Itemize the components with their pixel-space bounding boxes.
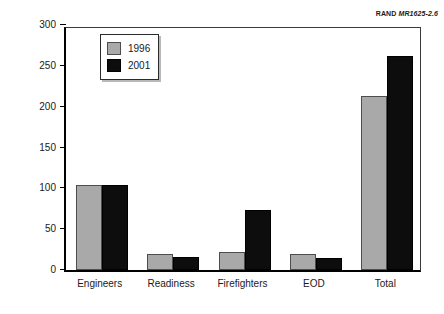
bar-group: [361, 28, 413, 270]
legend-item-2001: 2001: [107, 57, 150, 74]
rand-document-number: MR1625-2.6: [398, 10, 438, 17]
legend-item-1996: 1996: [107, 40, 150, 57]
chart-legend: 19962001: [100, 34, 159, 80]
rand-credit-line: RAND MR1625-2.6: [376, 10, 438, 17]
legend-swatch-1996: [107, 42, 121, 55]
y-axis-tick-label: 100: [18, 181, 56, 194]
x-axis-tick-label: Total: [335, 277, 435, 290]
bar-engineers-2001: [102, 185, 128, 270]
rand-logo-text: RAND: [376, 10, 397, 17]
bar-firefighters-1996: [219, 252, 245, 270]
bar-group: [290, 28, 342, 270]
legend-label-2001: 2001: [128, 59, 150, 72]
y-axis-tick-label: 200: [18, 100, 56, 113]
bar-readiness-1996: [147, 254, 173, 270]
y-axis-tick-label: 0: [18, 263, 56, 276]
bar-total-2001: [387, 56, 413, 270]
y-axis-tick-label: 300: [18, 18, 56, 31]
bar-firefighters-2001: [245, 210, 271, 270]
y-axis-tick-label: 50: [18, 222, 56, 235]
bar-total-1996: [361, 96, 387, 270]
legend-swatch-2001: [107, 59, 121, 72]
bar-readiness-2001: [173, 257, 199, 270]
y-axis-tick-label: 150: [18, 141, 56, 154]
legend-label-1996: 1996: [128, 42, 150, 55]
y-axis-tick-label: 250: [18, 59, 56, 72]
bar-engineers-1996: [76, 185, 102, 270]
bar-eod-2001: [316, 258, 342, 270]
y-axis-tick-mark: [60, 24, 66, 25]
figure-bar-chart-personnel: RAND MR1625-2.6 Personnel 05010015020025…: [0, 0, 444, 314]
bar-group: [219, 28, 271, 270]
bar-eod-1996: [290, 254, 316, 270]
